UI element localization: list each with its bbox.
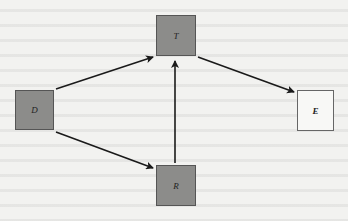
edge-d-to-r: [56, 132, 153, 168]
node-r: R: [156, 165, 196, 206]
node-d: D: [15, 90, 54, 130]
node-t: T: [156, 15, 196, 56]
node-t-label: T: [173, 31, 178, 41]
edge-t-to-e: [198, 57, 294, 92]
node-r-label: R: [173, 181, 179, 191]
diagram-canvas: T D E R: [0, 0, 348, 221]
node-e-label: E: [312, 106, 318, 116]
node-e: E: [297, 90, 334, 131]
node-d-label: D: [31, 105, 38, 115]
edge-d-to-t: [56, 57, 153, 89]
